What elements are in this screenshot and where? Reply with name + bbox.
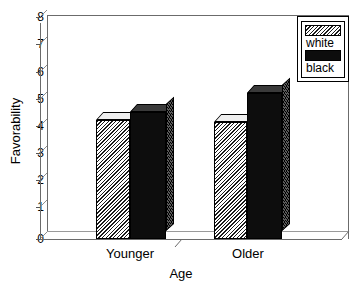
plot-floor-rear-edge	[47, 231, 349, 232]
x-axis-group-label-older: Older	[193, 246, 303, 261]
bar-front-face	[96, 120, 130, 239]
x-axis-title: Age	[36, 266, 326, 281]
legend-swatch-white-icon	[305, 25, 341, 36]
legend-swatch-black-icon	[305, 50, 341, 61]
plot-floor-right-slant	[336, 228, 354, 244]
chart-legend: white black	[297, 16, 349, 82]
bar-older-black	[247, 85, 282, 239]
legend-label-black: black	[305, 61, 341, 75]
bar-right-side	[282, 78, 290, 231]
legend-inner-box: white black	[301, 21, 345, 78]
bar-younger-white	[96, 112, 130, 239]
plot-floor-front-edge	[40, 239, 342, 240]
bar-chart-figure: 8 7 6 5 4 3 2 1 0	[0, 0, 358, 292]
bar-right-side	[166, 97, 174, 231]
y-axis-rear-line	[47, 15, 48, 231]
bar-younger-black	[130, 104, 166, 239]
bar-front-face	[214, 122, 247, 239]
bar-front-face	[247, 93, 282, 239]
x-axis-group-label-younger: Younger	[75, 246, 185, 261]
y-axis-title: Favorability	[7, 11, 25, 251]
y-axis-front-line	[40, 23, 41, 239]
bar-front-face	[130, 112, 166, 239]
bar-older-white	[214, 114, 247, 239]
legend-label-white: white	[305, 36, 341, 50]
